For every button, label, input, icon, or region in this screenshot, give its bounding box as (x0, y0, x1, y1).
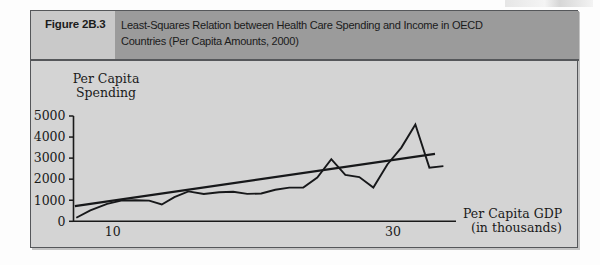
y-axis-title-line-2: Spending (76, 85, 136, 100)
page-edge-artifact (505, 0, 593, 7)
figure-number-label: Figure 2B.3 (45, 18, 105, 30)
y-axis-tick-label: 1000 (34, 193, 66, 208)
x-axis-tick-label: 10 (105, 224, 121, 239)
y-axis-ticks: 010002000300040005000 (34, 108, 74, 228)
figure-header: Figure 2B.3 Least-Squares Relation betwe… (31, 11, 579, 59)
chart-svg: Per Capita Spending 01000200030004000500… (31, 61, 579, 247)
figure-title-line-1: Least-Squares Relation between Health Ca… (121, 18, 483, 31)
data-series-health-spending (76, 124, 443, 217)
x-axis-title-line-2: (in thousands) (471, 220, 562, 235)
figure-title-line-2: Countries (Per Capita Amounts, 2000) (121, 34, 299, 47)
figure-title-band: Least-Squares Relation between Health Ca… (115, 11, 579, 59)
y-axis-tick-label: 4000 (34, 129, 66, 144)
x-axis-tick-label: 30 (385, 224, 401, 239)
figure-number-box: Figure 2B.3 (31, 11, 115, 59)
x-axis-ticks: 1030 (105, 224, 401, 239)
figure-title: Least-Squares Relation between Health Ca… (121, 17, 520, 48)
figure-panel: Figure 2B.3 Least-Squares Relation betwe… (30, 10, 578, 248)
y-axis-tick-label: 3000 (34, 150, 66, 165)
y-axis-tick-label: 5000 (34, 108, 66, 123)
x-axis-title-line-1: Per Capita GDP (463, 206, 562, 221)
y-axis-tick-label: 0 (58, 214, 66, 229)
y-axis-tick-label: 2000 (34, 171, 66, 186)
least-squares-regression-line (75, 154, 435, 206)
chart-plot-area: Per Capita Spending 01000200030004000500… (31, 61, 579, 247)
